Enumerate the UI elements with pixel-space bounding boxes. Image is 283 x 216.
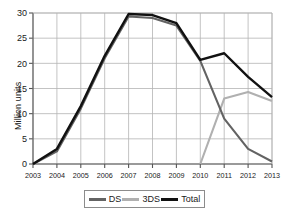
y-axis-tick-label: 10 bbox=[17, 109, 27, 119]
y-axis-tick-label: 30 bbox=[17, 8, 27, 18]
legend-label-ds: DS bbox=[109, 195, 122, 204]
x-axis-tick-label: 2009 bbox=[168, 171, 184, 180]
y-axis-tick-label: 5 bbox=[22, 134, 27, 144]
x-axis-tick-label: 2006 bbox=[97, 171, 113, 180]
legend-label-total: Total bbox=[181, 195, 200, 204]
legend-swatch-ds bbox=[89, 198, 106, 201]
legend-item-total: Total bbox=[161, 195, 200, 204]
x-axis-tick-label: 2008 bbox=[145, 171, 161, 180]
line-chart-plot: 0510152025302003200420052006200720082009… bbox=[0, 0, 283, 216]
y-axis-tick-label: 0 bbox=[22, 159, 27, 169]
y-axis-tick-label: 20 bbox=[17, 59, 27, 69]
x-axis-tick-label: 2010 bbox=[192, 171, 208, 180]
y-axis-tick-label: 25 bbox=[17, 33, 27, 43]
chart-legend: DS 3DS Total bbox=[84, 190, 205, 208]
y-axis-tick-label: 15 bbox=[17, 84, 27, 94]
x-axis-tick-label: 2003 bbox=[25, 171, 41, 180]
legend-swatch-3ds bbox=[122, 198, 139, 201]
chart-container: Million units 05101520253020032004200520… bbox=[0, 0, 283, 216]
x-axis-tick-label: 2012 bbox=[240, 171, 256, 180]
legend-label-3ds: 3DS bbox=[142, 195, 160, 204]
x-axis-tick-label: 2004 bbox=[49, 171, 65, 180]
series-line-3ds bbox=[200, 92, 272, 164]
x-axis-tick-label: 2005 bbox=[73, 171, 89, 180]
x-axis-tick-label: 2007 bbox=[121, 171, 137, 180]
legend-swatch-total bbox=[161, 198, 178, 201]
legend-item-ds: DS bbox=[89, 195, 122, 204]
x-axis-tick-label: 2011 bbox=[216, 171, 231, 180]
legend-item-3ds: 3DS bbox=[122, 195, 160, 204]
x-axis-tick-label: 2013 bbox=[264, 171, 280, 180]
